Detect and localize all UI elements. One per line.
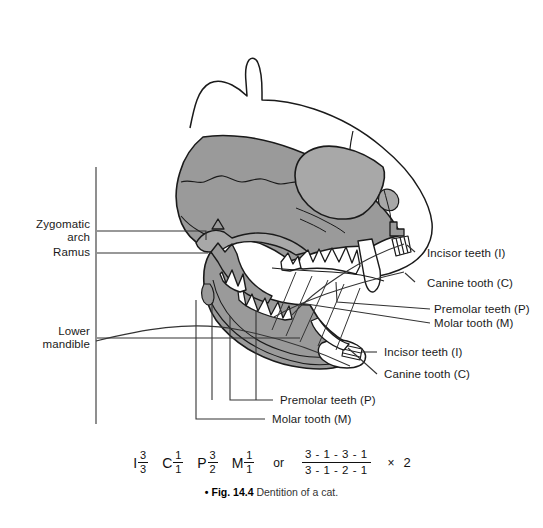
formula-C-upper: 1 xyxy=(173,450,183,463)
formula-letter-P: P xyxy=(197,455,207,471)
formula-expanded-denominator: 3 - 1 - 2 - 1 xyxy=(302,463,371,477)
caption-description: Dentition of a cat. xyxy=(256,486,338,498)
label-lower-mandible-line2: mandible xyxy=(43,338,90,350)
label-premolar-teeth-upper: Premolar teeth (P) xyxy=(434,303,530,316)
leader-canine-upper xyxy=(405,273,415,282)
label-incisor-teeth-lower: Incisor teeth (I) xyxy=(384,346,462,359)
formula-group-molar: M11 xyxy=(232,450,255,475)
label-canine-tooth-upper: Canine tooth (C) xyxy=(427,277,513,290)
mandible-angular-process xyxy=(202,284,214,305)
formula-I-upper: 3 xyxy=(138,450,148,463)
formula-fraction-C: 11 xyxy=(173,450,183,475)
formula-M-upper: 1 xyxy=(244,450,254,463)
label-zygomatic-arch-line1: Zygomatic xyxy=(36,218,90,230)
label-canine-tooth-lower: Canine tooth (C) xyxy=(384,368,470,381)
formula-M-lower: 1 xyxy=(244,463,254,475)
formula-fraction-M: 11 xyxy=(244,450,254,475)
label-lower-mandible-line1: Lower xyxy=(58,325,90,337)
formula-or-word: or xyxy=(273,456,284,470)
caption-figure-number: Fig. 14.4 xyxy=(211,486,253,498)
formula-C-lower: 1 xyxy=(173,463,183,475)
formula-group-incisor: I33 xyxy=(133,450,148,475)
label-premolar-teeth-lower: Premolar teeth (P) xyxy=(280,394,376,407)
formula-group-premolar: P32 xyxy=(197,450,217,475)
figure-dentition-of-a-cat: Zygomatic arch Ramus Lower mandible Inci… xyxy=(0,0,543,528)
figure-caption: • Fig. 14.4 Dentition of a cat. xyxy=(0,486,543,498)
formula-multiply-symbol: × xyxy=(388,456,395,470)
label-molar-tooth-upper: Molar tooth (M) xyxy=(434,317,513,330)
formula-multiplier: ×2 xyxy=(388,455,411,470)
formula-expanded-fraction: 3 - 1 - 3 - 1 3 - 1 - 2 - 1 xyxy=(302,448,371,477)
label-zygomatic-arch: Zygomatic arch xyxy=(6,218,90,244)
label-incisor-teeth-upper: Incisor teeth (I) xyxy=(427,247,505,260)
dental-formula: I33 C11 P32 M11 or 3 - 1 - 3 - 1 3 - 1 -… xyxy=(0,448,543,477)
formula-P-lower: 2 xyxy=(208,463,218,475)
label-zygomatic-arch-line2: arch xyxy=(67,231,90,243)
label-ramus-text: Ramus xyxy=(53,246,90,258)
caption-bullet: • xyxy=(205,486,209,498)
formula-fraction-I: 33 xyxy=(138,450,148,475)
formula-P-upper: 3 xyxy=(208,450,218,463)
formula-letter-M: M xyxy=(232,455,245,471)
formula-multiply-value: 2 xyxy=(404,455,411,470)
formula-expanded-numerator: 3 - 1 - 3 - 1 xyxy=(302,448,371,463)
formula-group-canine: C11 xyxy=(162,450,183,475)
formula-fraction-P: 32 xyxy=(208,450,218,475)
label-molar-tooth-lower: Molar tooth (M) xyxy=(272,413,351,426)
label-lower-mandible: Lower mandible xyxy=(6,325,90,351)
formula-I-lower: 3 xyxy=(138,463,148,475)
label-ramus: Ramus xyxy=(6,246,90,259)
formula-letter-C: C xyxy=(162,455,173,471)
